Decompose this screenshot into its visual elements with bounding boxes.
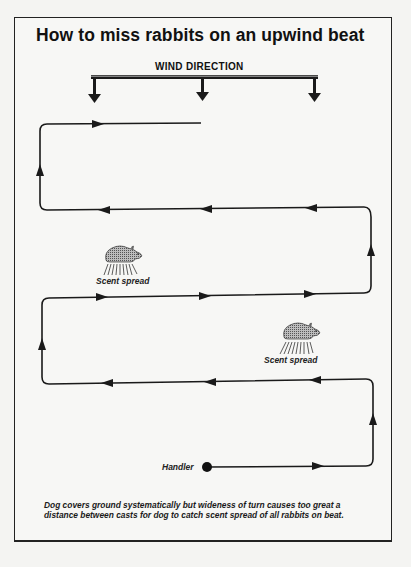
path-direction-arrows [36,120,377,470]
rabbit-icon [284,323,320,339]
wind-arrow-icon [88,79,101,103]
handler-dot-icon [202,462,212,472]
scent-spread-lines [280,342,313,354]
dog-path-diagram [0,0,411,567]
wind-direction-bar [91,75,318,79]
handler-label: Handler [162,462,194,472]
figure-caption: Dog covers ground systematically but wid… [44,500,364,520]
scent-spread-lines [104,264,137,275]
scent-spread-label: Scent spread [264,355,317,365]
wind-arrow-icon [196,79,209,101]
scent-spread-label: Scent spread [96,276,149,286]
wind-arrow-icon [308,79,321,102]
rabbit-icon [106,246,142,262]
